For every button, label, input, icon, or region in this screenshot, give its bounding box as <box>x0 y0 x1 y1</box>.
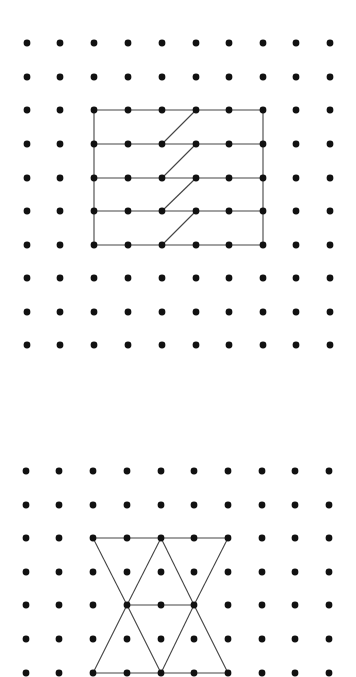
grid-dot <box>260 40 267 47</box>
grid-dot <box>327 141 334 148</box>
grid-dot <box>23 602 30 609</box>
grid-dot <box>226 342 233 349</box>
grid-dot <box>158 569 165 576</box>
grid-dot <box>226 141 233 148</box>
grid-dot <box>191 670 198 677</box>
grid-dot <box>159 309 166 316</box>
grid-dot <box>292 468 299 475</box>
grid-dot <box>327 175 334 182</box>
grid-dot <box>293 74 300 81</box>
grid-dot <box>125 208 132 215</box>
grid-dot <box>225 670 232 677</box>
grid-dot <box>57 242 64 249</box>
grid-dot <box>293 242 300 249</box>
grid-dot <box>56 468 63 475</box>
grid-dot <box>292 602 299 609</box>
grid-dot <box>225 468 232 475</box>
grid-dot <box>259 502 266 509</box>
grid-dot <box>24 141 31 148</box>
grid-dot <box>292 670 299 677</box>
grid-dot <box>326 468 333 475</box>
grid-dot <box>193 175 200 182</box>
grid-dot <box>327 208 334 215</box>
grid-dot <box>125 141 132 148</box>
segment <box>127 538 161 605</box>
grid-dot <box>225 602 232 609</box>
grid-dot <box>57 309 64 316</box>
grid-dot <box>193 141 200 148</box>
grid-dot <box>226 275 233 282</box>
grid-dot <box>260 175 267 182</box>
grid-dot <box>125 275 132 282</box>
grid-dot <box>158 636 165 643</box>
grid-dot <box>24 275 31 282</box>
grid-dot <box>90 468 97 475</box>
grid-dot <box>327 309 334 316</box>
rectangle-with-staggered-diagonals <box>94 110 263 245</box>
grid-dot <box>24 242 31 249</box>
grid-dot <box>292 636 299 643</box>
grid-dot <box>193 242 200 249</box>
grid-dot <box>326 602 333 609</box>
grid-dot <box>90 535 97 542</box>
segment <box>93 538 127 605</box>
grid-dot <box>327 275 334 282</box>
grid-dot <box>292 535 299 542</box>
grid-dot <box>159 242 166 249</box>
grid-dot <box>159 141 166 148</box>
grid-dot <box>158 670 165 677</box>
grid-dot <box>226 74 233 81</box>
grid-dot <box>158 468 165 475</box>
grid-dot <box>23 535 30 542</box>
grid-dot <box>159 275 166 282</box>
grid-dot <box>91 242 98 249</box>
grid-dot <box>57 342 64 349</box>
grid-dot <box>226 309 233 316</box>
grid-dot <box>23 502 30 509</box>
grid-dot <box>327 40 334 47</box>
grid-dot <box>327 242 334 249</box>
grid-dot <box>158 502 165 509</box>
grid-dot <box>191 569 198 576</box>
grid-dot <box>225 535 232 542</box>
grid-dot <box>125 242 132 249</box>
grid-dot <box>57 74 64 81</box>
segment <box>127 605 161 673</box>
grid-dot <box>90 602 97 609</box>
grid-dot <box>260 208 267 215</box>
grid-dot <box>56 535 63 542</box>
grid-dot <box>24 175 31 182</box>
grid-dot <box>23 636 30 643</box>
dot-grid-diagram <box>0 0 356 677</box>
grid-dot <box>191 468 198 475</box>
segment <box>161 538 194 605</box>
grid-dot <box>124 502 131 509</box>
grid-dot <box>293 141 300 148</box>
grid-dot <box>56 602 63 609</box>
grid-dot <box>259 569 266 576</box>
top-dot-grid <box>24 40 334 349</box>
grid-dot <box>57 175 64 182</box>
grid-dot <box>57 40 64 47</box>
grid-dot <box>158 535 165 542</box>
grid-dot <box>259 670 266 677</box>
grid-dot <box>125 40 132 47</box>
grid-dot <box>260 74 267 81</box>
grid-dot <box>124 569 131 576</box>
grid-dot <box>56 670 63 677</box>
grid-dot <box>124 670 131 677</box>
grid-dot <box>226 208 233 215</box>
grid-dot <box>327 342 334 349</box>
grid-dot <box>193 208 200 215</box>
segment <box>162 178 196 211</box>
grid-dot <box>24 309 31 316</box>
grid-dot <box>260 107 267 114</box>
grid-dot <box>124 535 131 542</box>
grid-dot <box>260 242 267 249</box>
grid-dot <box>23 569 30 576</box>
grid-dot <box>259 468 266 475</box>
grid-dot <box>260 275 267 282</box>
grid-dot <box>24 107 31 114</box>
grid-dot <box>326 636 333 643</box>
segment <box>162 211 196 245</box>
